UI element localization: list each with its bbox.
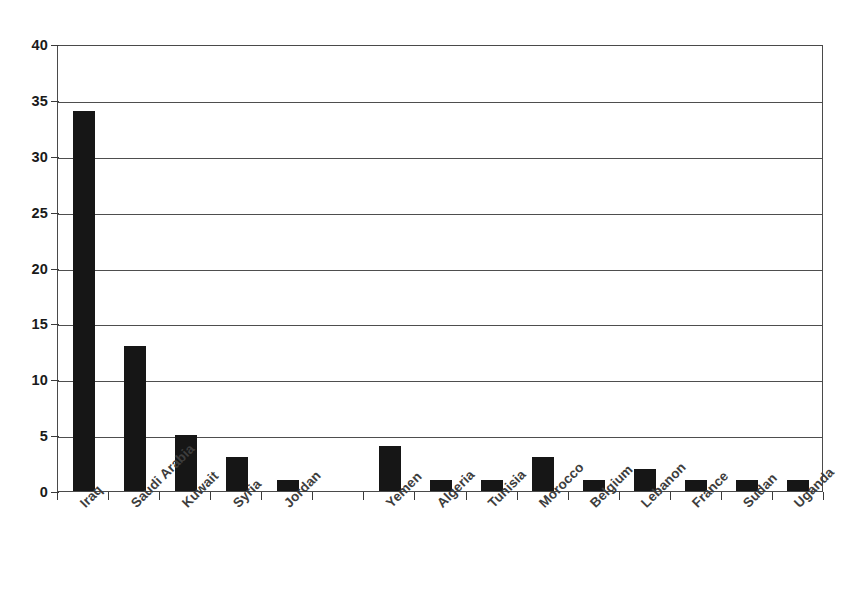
y-axis-tick-mark [51, 492, 59, 493]
bar-slot [773, 46, 824, 491]
y-axis-tick-mark [51, 269, 59, 270]
x-axis-tick-mark [823, 492, 824, 500]
bar-slot [160, 46, 211, 491]
bar-slot [262, 46, 313, 491]
bar-slot [518, 46, 569, 491]
bar-slot [722, 46, 773, 491]
bar-slot [58, 46, 109, 491]
y-axis-tick-mark [51, 45, 59, 46]
y-axis-tick-label: 20 [31, 261, 48, 277]
bar-slot [211, 46, 262, 491]
bar-slot [415, 46, 466, 491]
y-axis-tick-mark [51, 157, 59, 158]
y-axis-tick-label: 25 [31, 205, 48, 221]
plot-area [57, 45, 823, 492]
y-axis-tick-label: 10 [31, 372, 48, 388]
y-axis-tick-mark [51, 324, 59, 325]
bar-slot [313, 46, 364, 491]
y-axis-tick-label: 30 [31, 149, 48, 165]
bar-chart: 0510152025303540 IraqSaudi ArabiaKuwaitS… [0, 0, 854, 593]
x-axis-labels: IraqSaudi ArabiaKuwaitSyriaJordanYemenAl… [57, 492, 823, 593]
bar-slot [569, 46, 620, 491]
bar [73, 111, 95, 491]
bar [124, 346, 146, 491]
bar-slot [467, 46, 518, 491]
y-axis-tick-label: 5 [40, 428, 48, 444]
bar-slot [620, 46, 671, 491]
bar-slot [671, 46, 722, 491]
y-axis-tick-mark [51, 380, 59, 381]
y-axis-labels: 0510152025303540 [0, 0, 48, 593]
bar-slot [364, 46, 415, 491]
y-axis-tick-label: 35 [31, 93, 48, 109]
y-axis-tick-mark [51, 101, 59, 102]
y-axis-tick-label: 0 [40, 484, 48, 500]
y-axis-tick-mark [51, 436, 59, 437]
y-axis-tick-label: 15 [31, 316, 48, 332]
bar-slot [109, 46, 160, 491]
y-axis-tick-mark [51, 213, 59, 214]
y-axis-tick-label: 40 [31, 37, 48, 53]
